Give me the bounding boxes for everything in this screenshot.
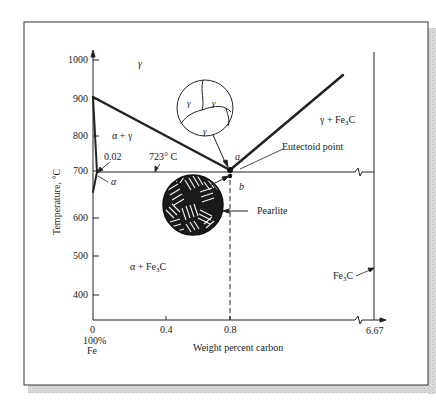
region-alpha-gamma: α + γ: [112, 131, 132, 141]
region-alpha-fe3c: α + Fe3C: [130, 262, 166, 274]
x-tick-6-67: 6.67: [366, 326, 384, 336]
y-tick-700: 700: [73, 166, 88, 176]
x-tick-0: 0: [90, 325, 95, 335]
point-b-label: b: [239, 182, 244, 192]
y-axis-label: Temperature, °C: [52, 169, 62, 235]
x-tick-0-4: 0.4: [160, 325, 173, 335]
eutectoid-temp-label: 723° C: [149, 152, 177, 162]
origin-note-fe: Fe: [87, 346, 97, 356]
fe3c-label-prefix: Fe: [333, 270, 343, 281]
x-axis-label: Weight percent carbon: [193, 343, 283, 353]
region-alpha-fe3c-suffix: C: [159, 261, 166, 272]
y-tick-1000: 1000: [68, 55, 88, 65]
y-tick-800: 800: [73, 131, 88, 141]
y-tick-400: 400: [73, 290, 88, 300]
grain-gamma-3: γ: [203, 127, 207, 136]
region-alpha-gamma-text: α + γ: [112, 130, 132, 141]
y-tick-900: 900: [73, 94, 88, 104]
fe3c-label-suffix: C: [347, 270, 354, 281]
grain-gamma-1: γ: [187, 99, 191, 108]
region-alpha: α: [111, 177, 116, 187]
pearlite-label: Pearlite: [257, 206, 288, 216]
x-tick-0-8: 0.8: [224, 325, 237, 335]
point-a-label: a: [235, 152, 240, 162]
eutectoid-point-a: [227, 167, 233, 173]
grain-gamma-2: γ: [212, 99, 216, 108]
y-tick-500: 500: [73, 251, 88, 261]
region-gamma-fe3c: γ + Fe3C: [320, 115, 355, 127]
region-alpha-fe3c-prefix: α + Fe: [130, 261, 156, 272]
region-gamma-fe3c-suffix: C: [349, 114, 356, 125]
eutectoid-point-label: Eutectoid point: [282, 142, 343, 152]
region-gamma-fe3c-prefix: γ + Fe: [320, 114, 345, 125]
region-gamma: γ: [138, 59, 142, 69]
fe3c-label: Fe3C: [333, 271, 353, 283]
y-tick-600: 600: [73, 213, 88, 223]
solubility-label: 0.02: [104, 152, 122, 162]
